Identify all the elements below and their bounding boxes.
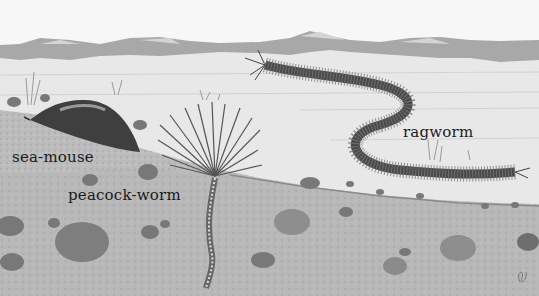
label-peacock-worm: peacock-worm [68,188,181,203]
sky [0,0,539,45]
seabed-illustration: sea-mouse peacock-worm ragworm [0,0,539,296]
label-ragworm: ragworm [403,125,473,140]
label-sea-mouse: sea-mouse [12,150,94,165]
